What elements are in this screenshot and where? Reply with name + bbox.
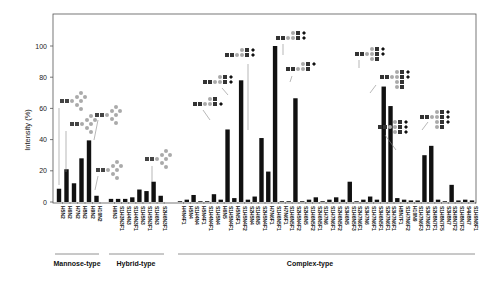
x-axis-labels: H5N2H6N2H7N2H8N2H9N2H10N2H6N3S1H3N3F1S1H… [60,206,479,231]
bar [266,172,270,202]
x-tick-label: S1H4N4F1 [208,206,214,231]
glycan-icon [145,149,172,169]
bar [246,200,250,202]
x-tick-label: S4H8N7 [466,206,472,225]
bar [239,80,243,202]
x-tick-label: S3H6N5 [344,206,350,225]
bar [159,196,163,202]
x-tick-label: S2H5N4F1 [262,206,268,231]
x-tick-label: H5N5F1 [235,206,241,225]
bar [307,200,311,202]
bar [178,201,182,202]
y-tick-label: 100 [35,43,47,50]
glycan-icon [380,70,410,89]
x-tick-label: S3H6N5F1 [378,206,384,231]
y-tick-label: 0 [43,199,47,206]
group-label-mannose: Mannose-type [53,260,100,268]
x-tick-label: S1H4N4 [194,206,200,225]
bar [300,201,304,202]
x-tick-label: S2H6N5F1 [317,206,323,231]
bar [87,140,91,202]
bar [436,200,440,202]
x-tick-label: H7N6F1 [269,206,275,225]
x-tick-label: S2H6N5F2 [337,206,343,231]
bar [327,200,331,202]
bar [395,198,399,202]
bar [79,158,83,202]
x-tick-label: S2H8N7F2 [452,206,458,231]
glycan-icon [70,114,97,134]
x-tick-label: S1H5N4F1 [228,206,234,231]
x-tick-label: H4N4F1 [181,206,187,225]
bar [191,195,195,202]
bar [116,199,120,202]
bar [341,200,345,202]
x-tick-label: S3H8N7 [446,206,452,225]
x-tick-label: S1H7N6F1 [371,206,377,231]
x-tick-label: S1H6N5F3 [351,206,357,231]
bar [470,200,474,202]
x-tick-label: S2H5N4 [249,206,255,225]
x-tick-label: H8N7F1 [398,206,404,225]
bar [109,199,113,202]
x-tick-label: S1H6N5F2 [310,206,316,231]
x-tick-label: S1H7N6F2 [405,206,411,231]
x-tick-label: S1H7N6 [323,206,329,225]
glycan-icon [225,48,255,57]
bar [361,200,365,202]
x-tick-label: S1H5N4F2 [242,206,248,231]
bar [72,183,76,202]
bar [415,200,419,202]
x-tick-label: S2H7N6F1 [385,206,391,231]
bar [57,189,61,202]
group-brackets: Mannose-type Hybrid-type Complex-type [53,254,475,268]
bar [212,194,216,202]
x-tick-label: S1H5N3 [140,206,146,225]
bar [429,146,433,202]
bar [409,200,413,202]
glycan-icon [203,75,233,84]
x-tick-label: H5N2 [60,206,66,219]
glycan-icon [60,91,87,111]
group-label-hybrid: Hybrid-type [117,260,156,268]
x-tick-label: S2H7N6F1 [357,206,363,231]
bar [273,46,277,202]
y-tick-label: 20 [39,167,47,174]
x-tick-label: S1H7N6F1 [330,206,336,231]
y-axis: 020406080100 [35,43,53,206]
bar [286,201,290,202]
glycan-icon [276,31,306,40]
bar [456,200,460,202]
x-tick-label: H6N5 [222,206,228,219]
bar [382,87,386,202]
x-tick-label: S1H9N8F1 [473,206,479,231]
x-tick-label: H5N4F1 [201,206,207,225]
glycan-icon [286,62,316,71]
bar [443,201,447,202]
bar [402,200,406,202]
bar [259,138,263,202]
x-tick-label: S2H5N4F2 [296,206,302,231]
group-label-complex: Complex-type [287,260,333,268]
x-tick-label: S1H6N5F1 [289,206,295,231]
y-tick-label: 80 [39,74,47,81]
bar [388,106,392,202]
bar [314,197,318,202]
x-tick-label: S3H7N6 [364,206,370,225]
x-tick-label: S2H8N7F1 [432,206,438,231]
x-tick-label: H10N9 [412,206,418,222]
bar [205,201,209,202]
x-tick-label: S1H5N4 [215,206,221,225]
bar [123,199,127,202]
x-tick-label: S1H7N6F3 [418,206,424,231]
bar [185,200,189,202]
bar [64,169,68,202]
y-tick-label: 60 [39,105,47,112]
bar [348,182,352,202]
bar [144,191,148,202]
glycan-icon [193,97,223,106]
x-tick-label: H9N2 [90,206,96,219]
bar [354,201,358,202]
x-tick-label: H5N4 [188,206,194,219]
x-tick-label: S2H6N5 [303,206,309,225]
